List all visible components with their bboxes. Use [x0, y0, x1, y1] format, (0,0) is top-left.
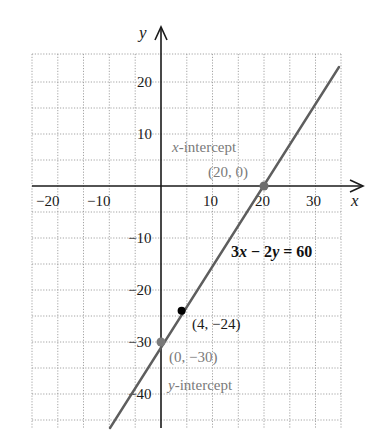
- y-tick-label: −30: [128, 334, 151, 350]
- y-tick-label: −10: [128, 230, 151, 246]
- point-label: (4, −24): [192, 316, 240, 333]
- y-intercept-coords: (0, −30): [169, 349, 217, 366]
- y-tick-label: −20: [128, 282, 151, 298]
- x-intercept-title: x-intercept: [171, 139, 237, 155]
- y-tick-label: 10: [137, 126, 152, 142]
- x-intercept-coords: (20, 0): [208, 164, 248, 181]
- x-tick-label: −10: [87, 193, 110, 209]
- x-tick-label: 10: [203, 193, 218, 209]
- y-axis-label: y: [137, 23, 147, 42]
- x-tick-label: −20: [36, 193, 59, 209]
- equation-label: 3x − 2y = 60: [231, 243, 312, 261]
- y-intercept-point: [157, 338, 166, 347]
- y-intercept-title: y-intercept: [166, 377, 233, 393]
- x-intercept-point: [260, 182, 269, 191]
- y-tick-label: 20: [137, 74, 152, 90]
- x-axis-label: x: [350, 191, 359, 210]
- grid: [32, 54, 341, 428]
- x-tick-label: 30: [306, 193, 321, 209]
- point-4-neg24: [178, 307, 186, 315]
- line-graph: x y −20 −10 10 20 30 20 10 −10 −20 −30 −…: [0, 0, 391, 432]
